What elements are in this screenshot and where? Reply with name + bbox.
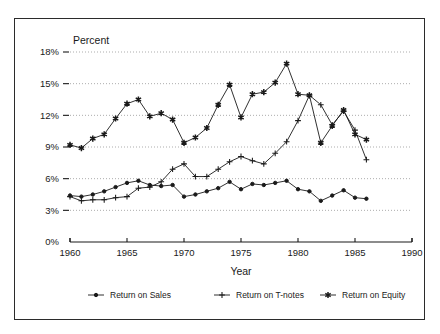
x-tick-label-1965: 1965 xyxy=(116,247,137,258)
legend-group: Return on SalesReturn on T-notesReturn o… xyxy=(88,290,406,300)
pt-1970-star-core xyxy=(183,142,185,144)
pt-1978-dot-marker xyxy=(274,181,277,184)
pt-1968-star-core xyxy=(160,112,162,114)
y-tick-label-9: 9% xyxy=(45,141,59,152)
pt-1963-dot-marker xyxy=(103,190,106,193)
x-tick-label-1985: 1985 xyxy=(344,247,365,258)
pt-1981-star-core xyxy=(309,94,311,96)
pt-1966-star-core xyxy=(138,99,140,101)
legend-0-dot-marker xyxy=(94,293,97,296)
line-chart: 0%3%6%9%12%15%18% 1960196519701975198019… xyxy=(0,0,440,334)
legend-item-return-on-t-notes[interactable]: Return on T-notes xyxy=(214,290,304,300)
pt-1962-star-core xyxy=(92,138,94,140)
y-tick-label-6: 6% xyxy=(45,173,59,184)
pt-1962-dot-marker xyxy=(91,193,94,196)
pt-1971-star-core xyxy=(195,137,197,139)
gridlines-group xyxy=(70,52,412,210)
x-tick-label-1960: 1960 xyxy=(59,247,80,258)
pt-1972-star-core xyxy=(206,127,208,129)
pt-1960-plus-marker xyxy=(67,194,73,200)
pt-1976-dot-marker xyxy=(251,182,254,185)
x-axis-group: 1960196519701975198019851990 xyxy=(59,238,422,258)
legend-label: Return on T-notes xyxy=(236,290,304,300)
series-group xyxy=(67,61,369,204)
y-axis-group: 0%3%6%9%12%15%18% xyxy=(40,46,69,247)
pt-1975-plus-marker xyxy=(238,154,244,160)
pt-1972-dot-marker xyxy=(205,190,208,193)
pt-1974-star-core xyxy=(229,84,231,86)
pt-1964-plus-marker xyxy=(113,195,119,201)
legend-item-return-on-sales[interactable]: Return on Sales xyxy=(88,290,171,300)
pt-1966-dot-marker xyxy=(137,179,140,182)
y-tick-label-0: 0% xyxy=(45,236,59,247)
pt-1964-star-core xyxy=(115,118,117,120)
y-tick-label-18: 18% xyxy=(40,46,60,57)
pt-1965-dot-marker xyxy=(125,181,128,184)
y-tick-label-12: 12% xyxy=(40,110,60,121)
y-tick-label-3: 3% xyxy=(45,205,59,216)
x-axis-title: Year xyxy=(230,265,252,277)
pt-1973-star-core xyxy=(217,104,219,106)
pt-1961-star-core xyxy=(81,147,83,149)
series-return-on-equity xyxy=(67,61,369,152)
y-axis-title: Percent xyxy=(73,34,109,46)
pt-1967-star-core xyxy=(149,115,151,117)
legend-label: Return on Equity xyxy=(342,290,406,300)
pt-1980-dot-marker xyxy=(296,188,299,191)
pt-1986-plus-marker xyxy=(364,157,370,163)
pt-1979-star-core xyxy=(286,63,288,65)
axis-titles-group: PercentYear xyxy=(73,34,252,277)
chart-figure: 0%3%6%9%12%15%18% 1960196519701975198019… xyxy=(0,0,440,334)
pt-1973-dot-marker xyxy=(217,186,220,189)
pt-1984-star-core xyxy=(343,109,345,111)
pt-1976-star-core xyxy=(252,93,254,95)
pt-1984-dot-marker xyxy=(342,189,345,192)
pt-1977-star-core xyxy=(263,91,265,93)
pt-1964-dot-marker xyxy=(114,185,117,188)
pt-1980-star-core xyxy=(297,93,299,95)
pt-1980-plus-marker xyxy=(295,118,301,124)
pt-1975-dot-marker xyxy=(239,188,242,191)
pt-1974-plus-marker xyxy=(227,159,233,165)
pt-1976-plus-marker xyxy=(250,158,256,164)
pt-1963-star-core xyxy=(103,133,105,135)
pt-1978-star-core xyxy=(274,82,276,84)
pt-1963-plus-marker xyxy=(101,197,107,203)
legend-item-return-on-equity[interactable]: Return on Equity xyxy=(320,290,406,300)
pt-1979-dot-marker xyxy=(285,179,288,182)
legend-2-star-core xyxy=(327,294,329,296)
pt-1961-dot-marker xyxy=(80,195,83,198)
pt-1960-star-core xyxy=(69,144,71,146)
x-tick-label-1975: 1975 xyxy=(230,247,251,258)
y-tick-label-15: 15% xyxy=(40,78,60,89)
pt-1985-star-core xyxy=(354,133,356,135)
pt-1985-dot-marker xyxy=(353,196,356,199)
pt-1977-dot-marker xyxy=(262,183,265,186)
pt-1975-star-core xyxy=(240,117,242,119)
x-tick-label-1970: 1970 xyxy=(173,247,194,258)
pt-1968-dot-marker xyxy=(160,184,163,187)
pt-1961-plus-marker xyxy=(79,198,85,204)
pt-1974-dot-marker xyxy=(228,180,231,183)
pt-1983-dot-marker xyxy=(331,194,334,197)
pt-1982-dot-marker xyxy=(319,199,322,202)
pt-1986-star-core xyxy=(366,139,368,141)
pt-1971-dot-marker xyxy=(194,193,197,196)
pt-1986-dot-marker xyxy=(365,197,368,200)
legend-label: Return on Sales xyxy=(110,290,171,300)
pt-1973-plus-marker xyxy=(215,166,221,172)
pt-1970-dot-marker xyxy=(182,195,185,198)
legend-1-plus-marker xyxy=(219,292,225,298)
pt-1962-plus-marker xyxy=(90,197,96,203)
series-line xyxy=(70,95,366,201)
x-tick-label-1990: 1990 xyxy=(401,247,422,258)
series-return-on-sales xyxy=(68,179,368,202)
pt-1969-dot-marker xyxy=(171,183,174,186)
pt-1983-star-core xyxy=(331,125,333,127)
pt-1969-star-core xyxy=(172,119,174,121)
pt-1965-star-core xyxy=(126,103,128,105)
x-tick-label-1980: 1980 xyxy=(287,247,308,258)
pt-1981-dot-marker xyxy=(308,190,311,193)
pt-1982-star-core xyxy=(320,142,322,144)
